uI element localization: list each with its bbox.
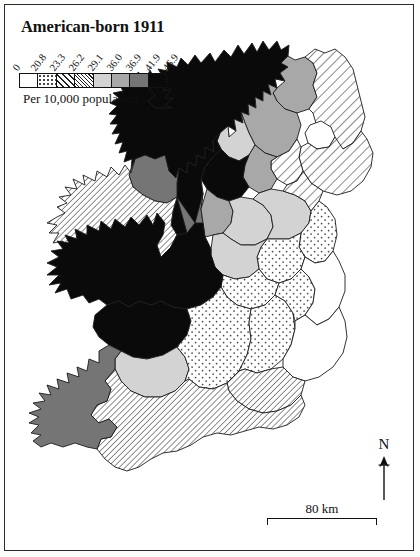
legend-tick-labels: 0 20.8 23.3 26.2 29.1 36.0 36.9 41.9 46.…	[19, 41, 193, 73]
legend-caption: Per 10,000 population	[23, 91, 193, 107]
map-frame: American-born 1911 0 20.8 23.3 26.2 29.1…	[4, 4, 414, 551]
legend-color-bar	[19, 73, 167, 88]
legend-swatch-class-2	[57, 74, 75, 87]
scale-bar-cap-left	[267, 518, 268, 525]
legend-tick-1: 20.8	[28, 52, 48, 73]
legend-swatch-class-1	[38, 74, 56, 87]
scale-bar-cap-right	[376, 518, 377, 525]
region-kerry	[29, 345, 121, 449]
map-figure: American-born 1911 0 20.8 23.3 26.2 29.1…	[0, 0, 420, 557]
legend-tick-3: 26.2	[66, 52, 86, 73]
legend-swatch-class-3	[75, 74, 93, 87]
north-arrow-label: N	[371, 437, 397, 452]
legend-swatch-class-6	[130, 74, 148, 87]
scale-bar-label: 80 km	[267, 501, 377, 517]
legend-swatch-class-4	[94, 74, 112, 87]
legend-tick-2: 23.3	[47, 52, 67, 73]
legend-tick-4: 29.1	[85, 52, 105, 73]
north-arrow-icon	[377, 454, 391, 500]
legend-title: American-born 1911	[21, 17, 193, 37]
map-legend: American-born 1911 0 20.8 23.3 26.2 29.1…	[15, 13, 193, 107]
legend-swatch-class-7	[149, 74, 166, 87]
legend-tick-8: 46.9	[160, 52, 180, 73]
legend-swatch-class-0	[20, 74, 38, 87]
north-arrow: N	[371, 437, 397, 504]
legend-tick-6: 36.9	[123, 52, 143, 73]
legend-swatch-class-5	[112, 74, 130, 87]
scale-bar-rule	[267, 518, 377, 526]
legend-tick-7: 41.9	[142, 52, 162, 73]
scale-bar: 80 km	[267, 501, 377, 526]
legend-tick-5: 36.0	[104, 52, 124, 73]
